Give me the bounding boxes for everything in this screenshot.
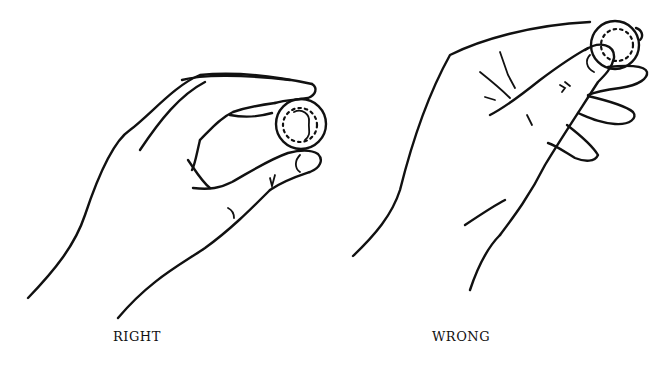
hand-illustrations <box>0 0 668 370</box>
wrong-hand-drawing <box>353 21 647 290</box>
right-hand-drawing <box>28 74 326 318</box>
wrong-label: WRONG <box>432 329 490 344</box>
right-label: RIGHT <box>113 329 161 344</box>
